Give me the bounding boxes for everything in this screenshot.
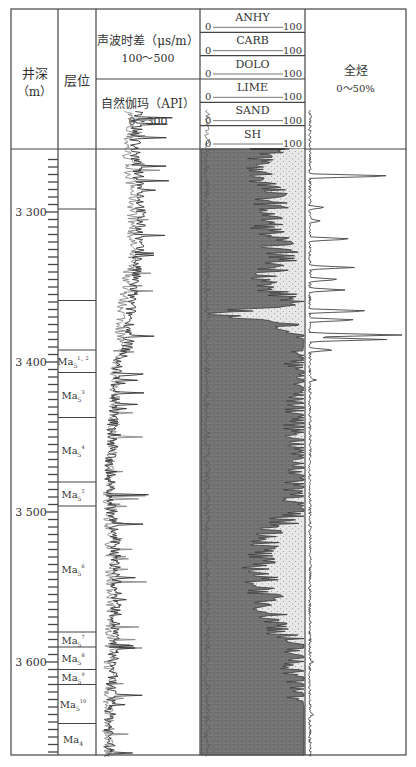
litho-legend-anhy: ANHY [234, 11, 270, 24]
litho-scale-min: 0 [205, 45, 211, 56]
litho-legend-sand: SAND [236, 104, 270, 117]
ac-curve-name: 声波时差（μs/m） [97, 34, 198, 48]
formation-label: Ma51、2 [57, 355, 88, 369]
depth-tick-label: 3 500 [15, 506, 47, 519]
litho-legend-carb: CARB [236, 34, 269, 47]
gas-header-range: 0～50% [336, 83, 375, 94]
formation-label: Ma59 [61, 671, 84, 685]
curve-track [103, 112, 173, 757]
formation-label: Ma55 [61, 488, 84, 502]
gr-curve [104, 112, 172, 757]
litho-scale-min: 0 [205, 91, 211, 102]
litho-legend-lime: LIME [237, 81, 268, 94]
litho-scale-max: 100 [283, 45, 302, 56]
formation-label: Ma510 [60, 698, 86, 712]
formation-label: Ma4 [63, 734, 83, 747]
well-log-chart: 井深（m）层位声波时差（μs/m）100～500自然伽玛（API）0～300AN… [0, 0, 416, 767]
litho-scale-min: 0 [205, 68, 211, 79]
litho-scale-max: 100 [283, 91, 302, 102]
litho-scale-max: 100 [283, 21, 302, 32]
litho-legend-dolo: DOLO [235, 58, 269, 71]
formation-track: Ma51、2Ma53Ma54Ma55Ma56Ma57Ma58Ma59Ma510M… [57, 209, 96, 747]
formation-label: Ma58 [61, 652, 84, 666]
log-header: 井深（m）层位声波时差（μs/m）100～500自然伽玛（API）0～300AN… [17, 11, 375, 149]
litho-scale-min: 0 [205, 21, 211, 32]
depth-header-label: 井深 [22, 66, 48, 81]
lithology-track [201, 110, 304, 757]
depth-tick-label: 3 300 [15, 206, 47, 219]
litho-scale-max: 100 [283, 115, 302, 126]
gas-header-label: 全烃 [344, 63, 368, 78]
depth-track: 3 3003 4003 5003 600 [15, 160, 58, 753]
total-gas-curve [309, 110, 403, 756]
depth-tick-label: 3 400 [15, 356, 47, 369]
formation-label: Ma56 [61, 563, 84, 577]
formation-label: Ma53 [61, 389, 84, 403]
litho-legend-sh: SH [244, 128, 261, 141]
gas-track [309, 110, 403, 756]
depth-tick-label: 3 600 [15, 656, 47, 669]
formation-label: Ma54 [61, 444, 84, 458]
litho-scale-max: 100 [283, 68, 302, 79]
depth-header-unit: （m） [17, 85, 52, 99]
formation-header-label: 层位 [64, 73, 90, 88]
litho-scale-max: 100 [283, 138, 302, 149]
ac-curve-range: 100～500 [122, 52, 175, 65]
formation-label: Ma57 [61, 634, 84, 648]
gr-curve-name: 自然伽玛（API） [101, 96, 194, 111]
